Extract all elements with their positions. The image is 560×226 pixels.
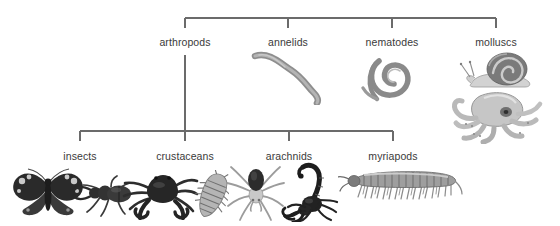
- node-label-insects[interactable]: insects: [63, 150, 96, 162]
- node-label-crustaceans[interactable]: crustaceans: [156, 150, 214, 162]
- millipede-illustration: [338, 166, 468, 210]
- node-label-nematodes[interactable]: nematodes: [366, 36, 419, 48]
- node-label-molluscs[interactable]: molluscs: [475, 36, 517, 48]
- spider-illustration: [225, 163, 287, 223]
- node-label-annelids[interactable]: annelids: [268, 36, 308, 48]
- woodlouse-illustration: [195, 170, 229, 222]
- earthworm-illustration: [251, 50, 337, 105]
- scorpion-illustration: [281, 160, 343, 222]
- node-label-myriapods[interactable]: myriapods: [368, 150, 417, 162]
- coiled-nematode-illustration: [357, 48, 427, 110]
- node-label-arthropods[interactable]: arthropods: [159, 36, 210, 48]
- octopus-illustration: [450, 88, 546, 144]
- snail-illustration: [459, 52, 539, 92]
- crab-illustration: [121, 166, 199, 224]
- classification-diagram: arthropods annelids nematodes molluscs i…: [0, 0, 560, 226]
